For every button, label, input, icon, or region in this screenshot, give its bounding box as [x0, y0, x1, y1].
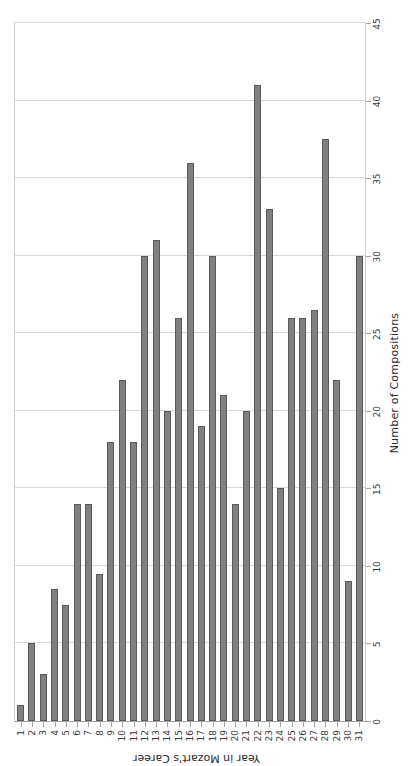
category-axis-tick-label: 24: [275, 730, 285, 741]
category-axis-tick-label: 2: [27, 730, 37, 736]
bar-row[interactable]: [254, 23, 261, 721]
bar[interactable]: [345, 581, 352, 721]
bar-row[interactable]: [209, 23, 216, 721]
bar-row[interactable]: [74, 23, 81, 721]
category-axis-tick-label: 29: [332, 730, 342, 741]
value-axis-title-label: Number of Compositions: [388, 313, 401, 454]
category-axis-tick-mark: [66, 722, 67, 727]
bar[interactable]: [28, 643, 35, 721]
category-axis-tick-mark: [235, 722, 236, 727]
value-axis-tick-label: 25: [372, 329, 382, 340]
bar[interactable]: [51, 589, 58, 721]
bar[interactable]: [254, 85, 261, 721]
bar-row[interactable]: [107, 23, 114, 721]
bar[interactable]: [243, 411, 250, 721]
value-axis-tick-label: 0: [372, 719, 382, 725]
category-axis-tick-label: 4: [50, 730, 60, 736]
bar-row[interactable]: [232, 23, 239, 721]
category-axis-tick-label: 1: [16, 730, 26, 736]
category-axis-tick-mark: [337, 722, 338, 727]
value-axis-tick-label: 20: [372, 406, 382, 417]
category-axis-tick-mark: [43, 722, 44, 727]
bar[interactable]: [266, 209, 273, 721]
bar[interactable]: [17, 706, 24, 722]
value-axis-tick-label: 10: [372, 561, 382, 572]
bar-row[interactable]: [243, 23, 250, 721]
bar-row[interactable]: [141, 23, 148, 721]
bar[interactable]: [311, 310, 318, 721]
bar-row[interactable]: [164, 23, 171, 721]
bar[interactable]: [175, 318, 182, 721]
bar-row[interactable]: [130, 23, 137, 721]
category-axis-tick-label: 15: [174, 730, 184, 741]
category-axis-tick-label: 19: [219, 730, 229, 741]
bar-row[interactable]: [40, 23, 47, 721]
chart-page-rotation-wrapper: 051015202530354045 Number of Composition…: [0, 0, 419, 766]
bar-row[interactable]: [119, 23, 126, 721]
bar-row[interactable]: [175, 23, 182, 721]
bar-row[interactable]: [299, 23, 306, 721]
category-axis-tick-mark: [111, 722, 112, 727]
bar[interactable]: [40, 674, 47, 721]
bar-row[interactable]: [96, 23, 103, 721]
category-axis-tick-mark: [325, 722, 326, 727]
value-axis-tick-label: 15: [372, 484, 382, 495]
category-axis-tick-label: 26: [298, 730, 308, 741]
bar-row[interactable]: [266, 23, 273, 721]
bar[interactable]: [288, 318, 295, 721]
bar[interactable]: [209, 256, 216, 721]
bar[interactable]: [62, 605, 69, 721]
category-axis-tick-label: 27: [309, 730, 319, 741]
bar[interactable]: [220, 395, 227, 721]
category-axis-tick-label: 21: [241, 730, 251, 741]
bar[interactable]: [96, 574, 103, 721]
bar[interactable]: [356, 256, 363, 721]
bar[interactable]: [130, 442, 137, 721]
bar[interactable]: [187, 163, 194, 721]
category-axis-tick-label: 30: [343, 730, 353, 741]
bar[interactable]: [322, 139, 329, 721]
bar-row[interactable]: [187, 23, 194, 721]
bar-row[interactable]: [62, 23, 69, 721]
value-axis-tick-label: 30: [372, 251, 382, 262]
bar[interactable]: [164, 411, 171, 721]
category-axis-tick-mark: [21, 722, 22, 727]
bar-row[interactable]: [51, 23, 58, 721]
bar-row[interactable]: [153, 23, 160, 721]
category-axis-tick-label: 3: [38, 730, 48, 736]
value-axis-tick-mark: [366, 23, 371, 24]
bar[interactable]: [198, 426, 205, 721]
category-axis-ticks: 1234567891011121314151617181920212223242…: [15, 722, 365, 732]
category-axis-tick-mark: [167, 722, 168, 727]
bar[interactable]: [277, 488, 284, 721]
category-axis-tick-label: 8: [95, 730, 105, 736]
category-axis-tick-mark: [77, 722, 78, 727]
category-axis-tick-mark: [190, 722, 191, 727]
category-axis-tick-mark: [359, 722, 360, 727]
bar-row[interactable]: [198, 23, 205, 721]
bar[interactable]: [141, 256, 148, 721]
bar[interactable]: [333, 380, 340, 721]
bar-row[interactable]: [85, 23, 92, 721]
category-axis-tick-label: 7: [83, 730, 93, 736]
bar[interactable]: [107, 442, 114, 721]
bar[interactable]: [74, 504, 81, 721]
bar-row[interactable]: [288, 23, 295, 721]
bar-row[interactable]: [17, 23, 24, 721]
bar-row[interactable]: [277, 23, 284, 721]
bar-row[interactable]: [356, 23, 363, 721]
bar[interactable]: [232, 504, 239, 721]
bar-row[interactable]: [28, 23, 35, 721]
bar-row[interactable]: [311, 23, 318, 721]
bar-row[interactable]: [345, 23, 352, 721]
bar-row[interactable]: [322, 23, 329, 721]
bar-row[interactable]: [333, 23, 340, 721]
bar-row[interactable]: [220, 23, 227, 721]
category-axis-tick-label: 5: [61, 730, 71, 736]
bar[interactable]: [153, 240, 160, 721]
category-axis-tick-mark: [156, 722, 157, 727]
bar[interactable]: [85, 504, 92, 721]
bar[interactable]: [299, 318, 306, 721]
category-axis-tick-label: 18: [208, 730, 218, 741]
bar[interactable]: [119, 380, 126, 721]
